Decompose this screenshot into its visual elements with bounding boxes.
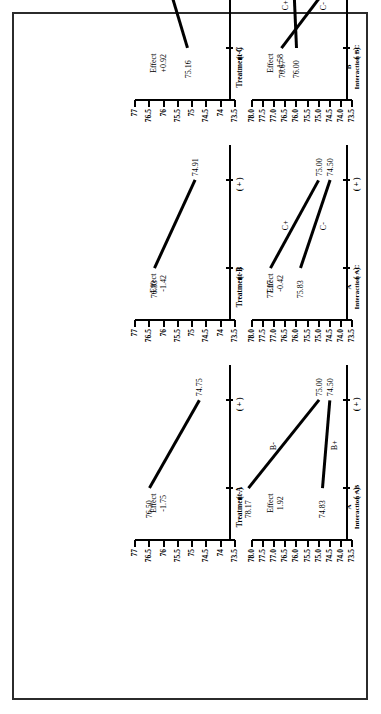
axis-tick [284,320,286,327]
point-label: 75.83 [296,280,305,298]
axis-tick [220,320,222,327]
axis-tick-label: 75.5 [304,549,311,575]
axis-tick-label: 76.5 [281,549,288,575]
axis-tick [148,100,150,107]
point-label: 74.83 [318,500,327,518]
axis-tick-label: 76.5 [281,109,288,135]
axis-tick [318,540,320,547]
axis-tick-label: 74.5 [202,549,209,575]
axis-tick-label: 77 [131,109,138,135]
panel-body-treatment-b: 7776.57675.57574.57473.5( - )( + )Treatm… [131,139,244,355]
series-label-C-: C- [319,222,328,230]
axis-tick [134,320,136,327]
axis-tick [191,100,193,107]
category-tick [226,47,233,49]
effect-annotation: Effect+0.92 [149,54,168,73]
series-label-C+: C+ [281,0,290,10]
series-label-B-: B- [269,442,278,450]
effect-word: Effect [149,494,159,513]
effect-value: 1.92 [276,494,286,513]
panel-body-treatment-a: 7776.57675.57574.57473.5( - )( + )Treatm… [131,359,244,575]
axis-tick [273,100,275,107]
axis-tick-label: 75.5 [174,549,181,575]
axis-tick-label: 76.5 [145,549,152,575]
category-axis [229,145,231,321]
axis-tick [295,100,297,107]
category-tick [226,399,233,401]
axis-tick-label: 74.0 [337,109,344,135]
axis-tick-label: 74.0 [337,549,344,575]
axis-tick [295,320,297,327]
axis-tick-label: 74.5 [326,329,333,355]
axis-tick-label: 76 [160,109,167,135]
series-line-s0 [148,400,200,489]
panel-title: AInteraction AB [345,399,361,615]
panel-title: Treatment C [236,0,244,175]
axis-tick [191,540,193,547]
axis-tick-label: 75.0 [315,549,322,575]
axis-tick [307,100,309,107]
axis-tick-label: 74.0 [337,329,344,355]
axis-tick [163,100,165,107]
panel-title: Treatment A [236,399,244,615]
point-label: 75.00 [315,378,324,396]
axis-tick-label: 75 [188,329,195,355]
axis-tick-label: 77.0 [270,549,277,575]
axis-tick [307,320,309,327]
series-label-C+: C+ [281,220,290,230]
axis-tick [220,100,222,107]
series-line-s0 [160,0,189,49]
point-label: 74.75 [195,378,204,396]
effect-word: Effect [149,274,159,293]
axis-tick-label: 77.5 [259,329,266,355]
category-tick [226,487,233,489]
panel-body-treatment-c: 7776.57675.57574.57473.5( - )( + )Treatm… [131,0,244,135]
axis-tick [295,540,297,547]
axis-tick [340,540,342,547]
axis-tick-label: 77.0 [270,109,277,135]
axis-tick [134,540,136,547]
axis-tick [273,320,275,327]
panel-title: AInteraction AC [345,179,361,395]
axis-tick [205,320,207,327]
axis-tick [251,540,253,547]
axis-tick [148,540,150,547]
axis-tick-label: 75.5 [304,109,311,135]
axis-tick-label: 77 [131,329,138,355]
series-label-B+: B+ [330,440,339,450]
axis-tick [262,320,264,327]
axis-tick [251,320,253,327]
axis-tick-label: 75.5 [174,329,181,355]
effect-word: Effect [149,54,159,73]
category-axis [229,0,231,101]
axis-tick-label: 76.0 [292,109,299,135]
effect-word: Effect [266,494,276,513]
effect-annotation: Effect-1.75 [149,494,168,513]
axis-tick [284,540,286,547]
axis-tick [262,100,264,107]
axis-tick-label: 74 [217,329,224,355]
axis-tick [177,320,179,327]
panel-title: BInteraction BC [345,0,361,175]
point-label: 75.16 [184,60,193,78]
point-label: 74.50 [326,158,335,176]
axis-tick-label: 77.5 [259,549,266,575]
effect-annotation: Effect-1.42 [149,274,168,293]
category-tick [226,179,233,181]
series-line-C- [281,0,350,49]
panel-treatment-b: 7776.57675.57574.57473.5( - )( + )Treatm… [131,139,244,355]
effect-word: Effect [266,274,276,293]
axis-tick [307,540,309,547]
series-line-s0 [153,180,196,269]
value-axis [252,99,352,101]
point-label: 74.50 [326,378,335,396]
axis-tick-label: 75.5 [304,329,311,355]
effect-annotation: Effect-0.42 [266,274,285,293]
series-label-C-: C- [319,2,328,10]
axis-tick-label: 74 [217,109,224,135]
axis-tick [177,540,179,547]
axis-tick [220,540,222,547]
axis-tick-label: 76.5 [145,109,152,135]
value-axis [252,539,352,541]
axis-tick-label: 77.0 [270,329,277,355]
